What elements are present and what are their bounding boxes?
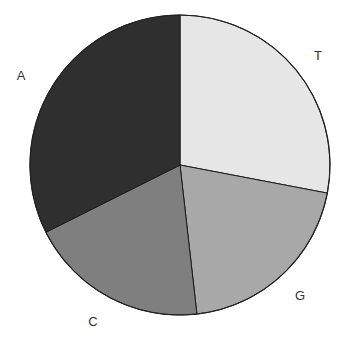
pie-chart: TGCA [0,0,345,342]
slice-label-c: C [88,314,97,329]
pie-slices [30,15,330,315]
pie-slice-t [180,15,330,193]
slice-label-t: T [314,48,322,63]
slice-label-g: G [295,288,305,303]
slice-label-a: A [17,68,26,83]
